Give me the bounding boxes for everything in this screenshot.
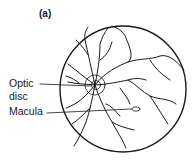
fundus-outline [60, 26, 186, 152]
retinal-vessels [66, 26, 184, 148]
retina-fundus-diagram [0, 0, 196, 163]
macula [132, 107, 140, 111]
